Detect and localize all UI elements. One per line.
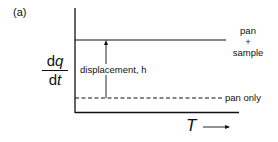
pan-sample-label-line1: pan [232, 25, 264, 36]
pan-sample-label: pan + sample [232, 25, 264, 58]
pan-only-label: pan only [225, 92, 261, 103]
x-axis-label: T [186, 116, 196, 136]
x-arrowhead-icon [225, 125, 230, 129]
pan-sample-label-line3: sample [232, 47, 264, 58]
y-axis-label: dq dt [42, 53, 68, 88]
arrowhead-icon [104, 40, 108, 45]
dq-d: d [47, 52, 55, 69]
panel-label: (a) [13, 6, 26, 18]
dt-d: d [49, 71, 57, 88]
dq-var: q [55, 52, 63, 69]
dt-var: t [57, 71, 61, 88]
pan-sample-label-line2: + [232, 36, 264, 47]
displacement-label: displacement, h [79, 64, 148, 75]
